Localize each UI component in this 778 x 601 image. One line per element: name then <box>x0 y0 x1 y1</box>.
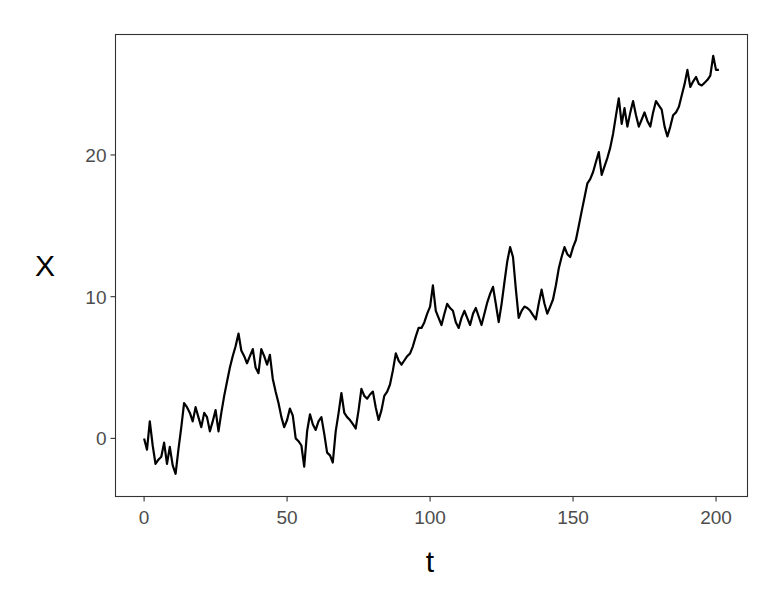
y-axis-title: X <box>35 249 55 282</box>
y-tick-label: 10 <box>85 287 106 308</box>
x-tick-label: 0 <box>139 507 150 528</box>
x-tick-label: 150 <box>557 507 589 528</box>
y-tick-label: 20 <box>85 145 106 166</box>
line-chart: 050100150200 01020 t X <box>0 0 778 601</box>
x-axis-title: t <box>426 545 435 578</box>
x-tick-label: 50 <box>277 507 298 528</box>
x-tick-label: 100 <box>414 507 446 528</box>
y-tick-label: 0 <box>96 428 107 449</box>
plot-panel <box>116 35 748 497</box>
x-tick-label: 200 <box>700 507 732 528</box>
